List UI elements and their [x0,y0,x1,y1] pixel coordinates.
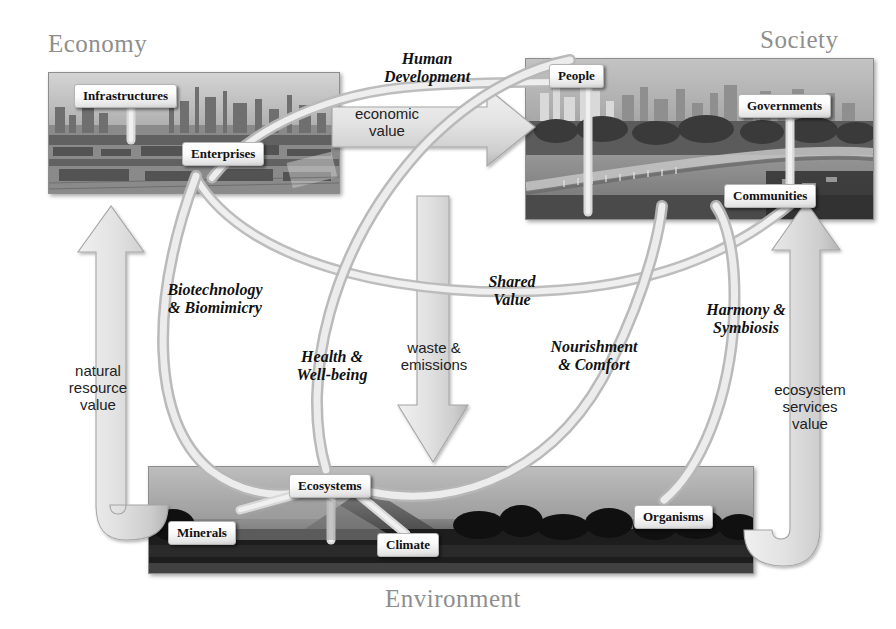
label-human-development: Human Development [352,50,502,86]
waste-emissions-arrow [398,196,468,462]
label-economic-value: economic value [332,106,442,140]
label-natural-resource-value: natural resource value [52,363,144,413]
node-minerals[interactable]: Minerals [168,521,236,545]
node-infrastructures[interactable]: Infrastructures [74,84,177,108]
label-ecosystem-services-value: ecosystem services value [760,382,860,432]
node-organisms[interactable]: Organisms [634,505,713,529]
label-nourishment-comfort: Nourishment & Comfort [529,338,659,374]
node-ecosystems[interactable]: Ecosystems [289,474,371,498]
node-enterprises[interactable]: Enterprises [182,142,264,166]
node-communities[interactable]: Communities [724,184,816,208]
label-waste-emissions: waste & emissions [382,340,486,374]
node-governments[interactable]: Governments [738,94,831,118]
label-biotechnology-biomimicry: Biotechnology & Biomimicry [140,281,290,317]
node-people[interactable]: People [549,64,604,88]
label-harmony-symbiosis: Harmony & Symbiosis [686,301,806,337]
diagram-canvas: Economy Society Environment Infrastructu… [0,0,896,629]
node-climate[interactable]: Climate [377,533,439,557]
label-health-wellbeing: Health & Well-being [276,348,388,384]
label-shared-value: Shared Value [462,273,562,309]
